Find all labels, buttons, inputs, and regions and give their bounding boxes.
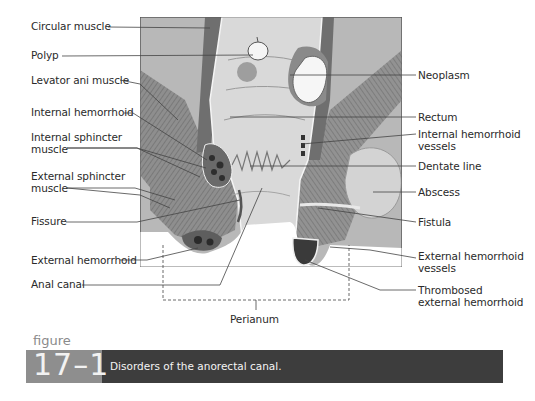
- label-anal-canal: Anal canal: [31, 278, 85, 290]
- label-internal-hemorrhoid-vessels-line2: vessels: [418, 140, 456, 152]
- label-external-sphincter-line2: muscle: [31, 182, 68, 194]
- label-rectum: Rectum: [418, 111, 457, 123]
- label-thrombosed-line1: Thrombosed: [418, 284, 483, 296]
- label-internal-hemorrhoid-vessels-line1: Internal hemorrhoid: [418, 128, 521, 140]
- label-external-sphincter-line1: External sphincter: [31, 170, 125, 182]
- label-fissure: Fissure: [31, 215, 67, 227]
- label-internal-hemorrhoid: Internal hemorrhoid: [31, 106, 134, 118]
- label-dentate-line: Dentate line: [418, 160, 481, 172]
- label-levator-ani-muscle: Levator ani muscle: [31, 74, 129, 86]
- label-circular-muscle: Circular muscle: [31, 20, 111, 32]
- label-thrombosed-line2: external hemorrhoid: [418, 296, 523, 308]
- label-external-hemorrhoid: External hemorrhoid: [31, 254, 137, 266]
- label-fistula: Fistula: [418, 216, 451, 228]
- label-internal-sphincter-line1: Internal sphincter: [31, 131, 122, 143]
- label-external-hemorrhoid-vessels-line1: External hemorrhoid: [418, 250, 524, 262]
- polyp-body: [248, 42, 268, 60]
- label-external-hemorrhoid-vessels-line2: vessels: [418, 262, 456, 274]
- label-neoplasm: Neoplasm: [418, 69, 470, 81]
- label-perianum: Perianum: [230, 313, 279, 325]
- anorectal-diagram: [0, 0, 535, 401]
- label-abscess: Abscess: [418, 186, 460, 198]
- figure-number: 17–1: [33, 347, 109, 383]
- label-internal-sphincter-line2: muscle: [31, 143, 68, 155]
- figure-caption: Disorders of the anorectal canal.: [110, 360, 282, 373]
- label-polyp: Polyp: [31, 49, 59, 61]
